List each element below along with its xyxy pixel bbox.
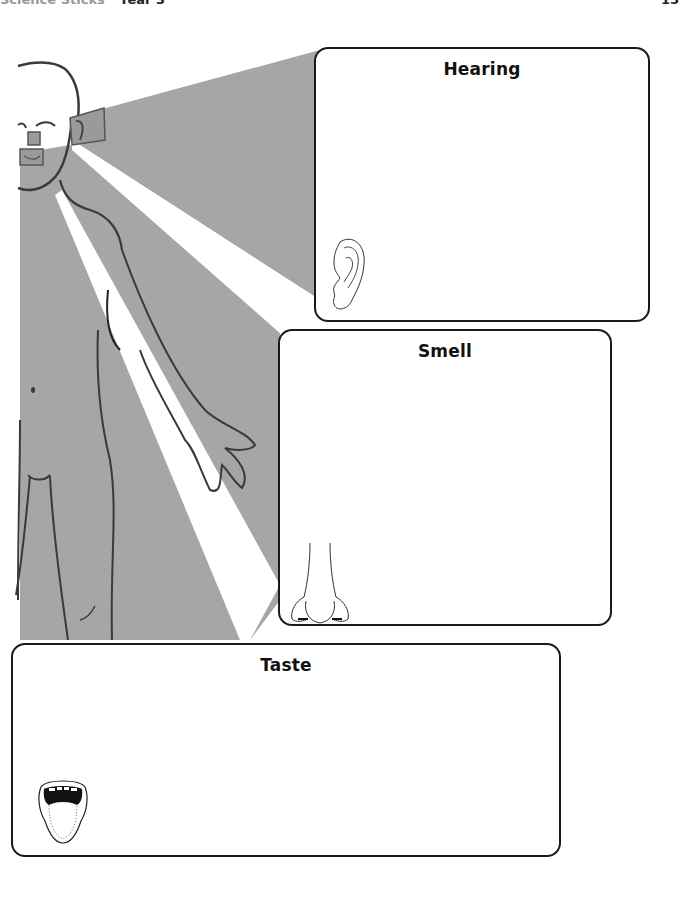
smell-title: Smell bbox=[280, 341, 610, 361]
taste-box[interactable]: Taste bbox=[11, 643, 561, 857]
smell-box[interactable]: Smell bbox=[278, 329, 612, 626]
hearing-box[interactable]: Hearing bbox=[314, 47, 650, 322]
nose-icon bbox=[286, 541, 356, 626]
ear-icon bbox=[330, 234, 370, 314]
mouth-tongue-icon bbox=[35, 777, 91, 845]
hearing-title: Hearing bbox=[316, 59, 648, 79]
eye-icon bbox=[18, 122, 55, 128]
ear-highlight bbox=[70, 108, 105, 145]
nose-highlight bbox=[28, 132, 40, 145]
taste-title: Taste bbox=[13, 655, 559, 675]
